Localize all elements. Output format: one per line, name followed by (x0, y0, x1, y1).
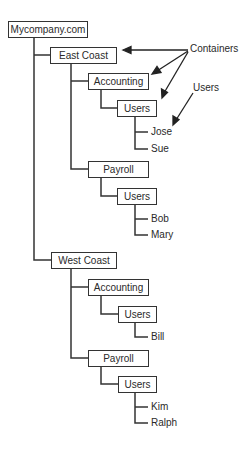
west-accounting-node: Accounting (88, 279, 149, 296)
user-mary: Mary (151, 230, 173, 240)
east-payroll-users-node: Users (117, 188, 157, 205)
east-coast-node: East Coast (50, 47, 117, 64)
user-sue: Sue (151, 144, 169, 154)
containers-annotation: Containers (190, 44, 238, 54)
west-coast-node: West Coast (51, 252, 117, 269)
user-jose: Jose (151, 127, 172, 137)
user-bob: Bob (151, 214, 169, 224)
east-accounting-users-node: Users (117, 100, 157, 117)
west-payroll-node: Payroll (88, 350, 149, 367)
root-node: Mycompany.com (8, 21, 88, 38)
east-accounting-node: Accounting (88, 73, 149, 90)
east-payroll-node: Payroll (88, 161, 149, 178)
west-payroll-users-node: Users (118, 376, 157, 393)
west-accounting-users-node: Users (118, 306, 157, 323)
user-bill: Bill (151, 332, 164, 342)
users-annotation: Users (193, 83, 219, 93)
user-kim: Kim (151, 402, 168, 412)
user-ralph: Ralph (151, 418, 177, 428)
